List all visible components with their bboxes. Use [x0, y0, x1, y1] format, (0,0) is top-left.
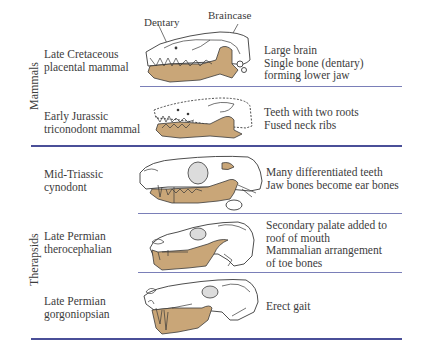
divider-bottom: [31, 338, 402, 340]
traits-triconodont: Teeth with two roots Fused neck ribs: [264, 106, 359, 131]
skull-therocephalian: [148, 220, 258, 270]
skull-triconodont-mammal: [150, 96, 254, 140]
taxon-name-therocephalian: Late Permian therocephalian: [44, 230, 112, 256]
skull-placental-mammal: [140, 20, 260, 82]
divider-row-1: [140, 86, 402, 87]
traits-therocephalian: Secondary palate added to roof of mouth …: [266, 219, 387, 269]
skull-cynodont: [138, 155, 264, 211]
traits-gorgoniopsian: Erect gait: [266, 300, 310, 313]
taxon-name-cynodont: Mid-Triassic cynodont: [44, 168, 103, 194]
group-label-mammals: Mammals: [27, 62, 42, 110]
taxon-name-triconodont: Early Jurassic triconodont mammal: [44, 110, 140, 136]
group-label-therapsids: Therapsids: [27, 233, 42, 286]
divider-row-3: [138, 213, 402, 214]
skull-gorgoniopsian: [142, 278, 260, 336]
traits-cynodont: Many differentiated teeth Jaw bones beco…: [266, 166, 399, 191]
taxon-name-gorgoniopsian: Late Permian gorgoniopsian: [44, 295, 110, 321]
traits-placental: Large brain Single bone (dentary) formin…: [264, 44, 364, 82]
divider-row-4: [138, 272, 402, 273]
divider-group: [31, 145, 402, 147]
taxon-name-placental: Late Cretaceous placental mammal: [44, 48, 129, 74]
